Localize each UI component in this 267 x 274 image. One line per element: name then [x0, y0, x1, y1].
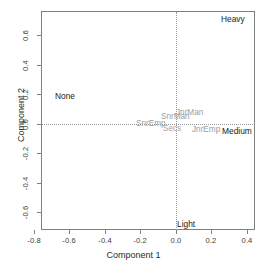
point-label-medium: Medium [222, 127, 252, 135]
x-tick-mark [211, 230, 212, 234]
point-label-secs: Secs [163, 125, 181, 133]
point-label-snremp: SnrEmp [136, 120, 166, 128]
x-tick-label: -0.4 [90, 236, 120, 245]
y-tick-mark [37, 153, 41, 154]
point-label-jnrman: JnrMan [176, 109, 203, 117]
x-tick-label: -0.8 [19, 236, 49, 245]
y-tick-mark [37, 65, 41, 66]
x-tick-mark [176, 230, 177, 234]
x-tick-label: 0.0 [161, 236, 191, 245]
x-tick-mark [34, 230, 35, 234]
x-axis-title: Component 1 [0, 250, 267, 260]
correspondence-analysis-biplot: -0.8 -0.6 -0.4 -0.2 0.0 0.2 0.4 0.6 0.4 … [0, 0, 267, 274]
x-tick-mark [105, 230, 106, 234]
y-tick-label: -0.6 [21, 202, 30, 224]
y-tick-mark [37, 183, 41, 184]
point-label-none: None [55, 92, 75, 100]
x-tick-label: 0.2 [196, 236, 226, 245]
x-tick-label: 0.4 [232, 236, 262, 245]
y-tick-mark [37, 124, 41, 125]
x-tick-mark [69, 230, 70, 234]
y-tick-mark [37, 94, 41, 95]
x-tick-mark [247, 230, 248, 234]
point-label-light: Light [177, 220, 195, 228]
y-tick-mark [37, 35, 41, 36]
x-tick-label: -0.2 [125, 236, 155, 245]
y-tick-mark [37, 212, 41, 213]
x-tick-mark [140, 230, 141, 234]
y-axis-title: Component 2 [16, 45, 26, 185]
point-label-heavy: Heavy [221, 15, 245, 23]
point-label-jnremp: JnrEmp [192, 126, 220, 134]
y-tick-label: 0.6 [21, 25, 30, 47]
x-tick-label: -0.6 [54, 236, 84, 245]
